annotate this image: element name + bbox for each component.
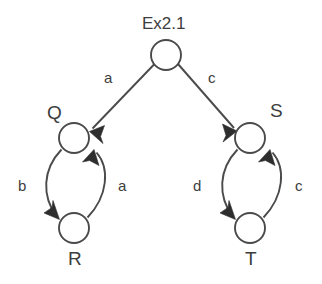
edge-root-to-s: [178, 64, 234, 128]
node-label-r: R: [68, 249, 82, 268]
arrowhead-root-to-q: [90, 126, 105, 144]
arrowhead-q-to-r: [44, 201, 60, 220]
edge-label-q-to-r: b: [18, 178, 26, 193]
node-t[interactable]: [235, 213, 265, 243]
node-root[interactable]: [151, 40, 181, 70]
graph-diagram: Ex2.1 Q R S T a c b a d c: [0, 0, 322, 284]
edge-label-root-to-q: a: [104, 70, 112, 85]
edge-label-root-to-s: c: [208, 70, 216, 85]
node-label-t: T: [245, 249, 257, 268]
arrowhead-t-to-s: [259, 150, 276, 166]
node-label-q: Q: [47, 103, 62, 122]
diagram-title: Ex2.1: [142, 15, 185, 32]
node-label-s: S: [270, 101, 283, 120]
graph-canvas: [0, 0, 322, 284]
edge-label-s-to-t: d: [193, 178, 201, 193]
edge-label-r-to-q: a: [118, 178, 126, 193]
arrowhead-r-to-q: [83, 150, 100, 166]
edge-root-to-q: [93, 64, 155, 129]
edge-label-t-to-s: c: [295, 178, 303, 193]
arrowhead-s-to-t: [220, 201, 236, 220]
node-s[interactable]: [235, 123, 265, 153]
node-q[interactable]: [59, 123, 89, 153]
node-r[interactable]: [59, 213, 89, 243]
